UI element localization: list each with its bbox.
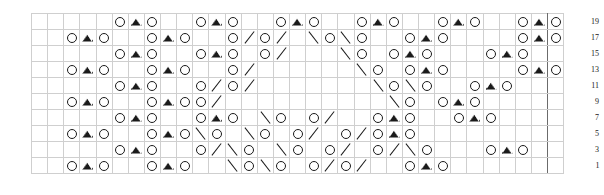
cell-knit-blank[interactable] <box>64 110 80 126</box>
cell-centered-double-decrease[interactable] <box>161 126 177 142</box>
cell-knit-blank[interactable] <box>48 78 64 94</box>
cell-knit-blank[interactable] <box>128 94 144 110</box>
cell-centered-double-decrease[interactable] <box>531 14 547 30</box>
cell-yarn-over[interactable] <box>370 62 386 78</box>
cell-yarn-over[interactable] <box>144 30 160 46</box>
cell-knit-blank[interactable] <box>306 62 322 78</box>
cell-knit-blank[interactable] <box>467 46 483 62</box>
cell-knit-blank[interactable] <box>32 46 48 62</box>
cell-knit-blank[interactable] <box>531 78 547 94</box>
cell-knit-blank[interactable] <box>451 126 467 142</box>
cell-knit-blank[interactable] <box>322 46 338 62</box>
cell-knit-blank[interactable] <box>64 142 80 158</box>
cell-knit-blank[interactable] <box>112 30 128 46</box>
cell-knit-blank[interactable] <box>531 46 547 62</box>
cell-centered-double-decrease[interactable] <box>128 14 144 30</box>
cell-knit-blank[interactable] <box>80 46 96 62</box>
cell-left-leaning-decrease[interactable] <box>402 142 418 158</box>
cell-knit-blank[interactable] <box>290 158 306 174</box>
cell-right-leaning-decrease[interactable] <box>338 142 354 158</box>
cell-knit-blank[interactable] <box>467 142 483 158</box>
cell-knit-blank[interactable] <box>161 78 177 94</box>
cell-yarn-over[interactable] <box>451 110 467 126</box>
cell-yarn-over[interactable] <box>273 158 289 174</box>
cell-yarn-over[interactable] <box>354 30 370 46</box>
cell-knit-blank[interactable] <box>128 126 144 142</box>
cell-knit-blank[interactable] <box>354 78 370 94</box>
cell-yarn-over[interactable] <box>322 30 338 46</box>
cell-yarn-over[interactable] <box>144 62 160 78</box>
cell-centered-double-decrease[interactable] <box>290 14 306 30</box>
cell-knit-blank[interactable] <box>112 126 128 142</box>
cell-knit-blank[interactable] <box>467 30 483 46</box>
cell-yarn-over[interactable] <box>402 110 418 126</box>
cell-knit-blank[interactable] <box>515 126 531 142</box>
cell-knit-blank[interactable] <box>112 62 128 78</box>
cell-yarn-over[interactable] <box>64 30 80 46</box>
cell-yarn-over[interactable] <box>338 126 354 142</box>
cell-yarn-over[interactable] <box>515 14 531 30</box>
cell-yarn-over[interactable] <box>225 14 241 30</box>
cell-knit-blank[interactable] <box>483 126 499 142</box>
cell-knit-blank[interactable] <box>48 126 64 142</box>
cell-yarn-over[interactable] <box>193 78 209 94</box>
cell-knit-blank[interactable] <box>80 142 96 158</box>
cell-yarn-over[interactable] <box>257 30 273 46</box>
cell-knit-blank[interactable] <box>402 14 418 30</box>
cell-yarn-over[interactable] <box>290 126 306 142</box>
cell-knit-blank[interactable] <box>290 110 306 126</box>
cell-knit-blank[interactable] <box>80 14 96 30</box>
cell-right-leaning-decrease[interactable] <box>209 142 225 158</box>
cell-right-leaning-decrease[interactable] <box>322 158 338 174</box>
cell-yarn-over[interactable] <box>144 158 160 174</box>
cell-knit-blank[interactable] <box>531 158 547 174</box>
cell-knit-blank[interactable] <box>48 14 64 30</box>
cell-yarn-over[interactable] <box>96 126 112 142</box>
cell-knit-blank[interactable] <box>354 142 370 158</box>
cell-knit-blank[interactable] <box>499 110 515 126</box>
cell-knit-blank[interactable] <box>241 14 257 30</box>
cell-knit-blank[interactable] <box>32 30 48 46</box>
cell-centered-double-decrease[interactable] <box>209 110 225 126</box>
cell-knit-blank[interactable] <box>193 158 209 174</box>
cell-centered-double-decrease[interactable] <box>483 78 499 94</box>
cell-right-leaning-decrease[interactable] <box>209 94 225 110</box>
cell-knit-blank[interactable] <box>354 110 370 126</box>
cell-knit-blank[interactable] <box>290 78 306 94</box>
cell-yarn-over[interactable] <box>144 46 160 62</box>
cell-yarn-over[interactable] <box>402 126 418 142</box>
cell-knit-blank[interactable] <box>64 46 80 62</box>
cell-knit-blank[interactable] <box>531 126 547 142</box>
cell-knit-blank[interactable] <box>483 94 499 110</box>
cell-knit-blank[interactable] <box>467 158 483 174</box>
cell-yarn-over[interactable] <box>419 78 435 94</box>
cell-yarn-over[interactable] <box>144 14 160 30</box>
cell-centered-double-decrease[interactable] <box>451 14 467 30</box>
cell-centered-double-decrease[interactable] <box>209 46 225 62</box>
cell-knit-blank[interactable] <box>451 78 467 94</box>
cell-yarn-over[interactable] <box>402 30 418 46</box>
cell-knit-blank[interactable] <box>177 46 193 62</box>
cell-knit-blank[interactable] <box>370 46 386 62</box>
cell-knit-blank[interactable] <box>96 142 112 158</box>
cell-centered-double-decrease[interactable] <box>451 94 467 110</box>
cell-left-leaning-decrease[interactable] <box>402 78 418 94</box>
cell-yarn-over[interactable] <box>112 46 128 62</box>
cell-yarn-over[interactable] <box>177 30 193 46</box>
cell-knit-blank[interactable] <box>515 78 531 94</box>
cell-knit-blank[interactable] <box>483 158 499 174</box>
cell-knit-blank[interactable] <box>531 142 547 158</box>
cell-knit-blank[interactable] <box>225 94 241 110</box>
cell-centered-double-decrease[interactable] <box>531 30 547 46</box>
cell-yarn-over[interactable] <box>225 46 241 62</box>
cell-knit-blank[interactable] <box>193 62 209 78</box>
cell-knit-blank[interactable] <box>306 78 322 94</box>
cell-yarn-over[interactable] <box>467 14 483 30</box>
cell-left-leaning-decrease[interactable] <box>273 142 289 158</box>
cell-centered-double-decrease[interactable] <box>499 142 515 158</box>
cell-knit-blank[interactable] <box>225 126 241 142</box>
cell-knit-blank[interactable] <box>64 14 80 30</box>
cell-centered-double-decrease[interactable] <box>419 158 435 174</box>
cell-yarn-over[interactable] <box>144 78 160 94</box>
cell-yarn-over[interactable] <box>435 62 451 78</box>
